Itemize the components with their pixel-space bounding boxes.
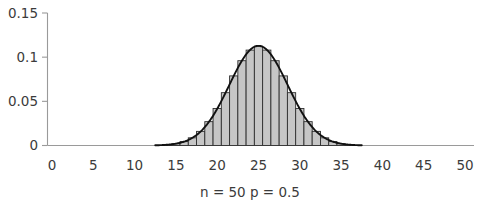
- x-tick-label: 50: [456, 157, 473, 173]
- x-tick-label: 30: [291, 157, 308, 173]
- y-tick-label: 0.05: [8, 93, 38, 109]
- histogram-bar: [263, 50, 271, 145]
- x-axis-tick-labels: 05101520253035404550: [48, 157, 474, 173]
- x-tick-label: 20: [209, 157, 226, 173]
- binomial-normal-chart: 00.050.10.15 05101520253035404550 n = 50…: [0, 0, 482, 214]
- y-axis-tick-labels: 00.050.10.15: [8, 5, 38, 154]
- y-axis: 00.050.10.15: [8, 5, 48, 154]
- histogram-bar: [271, 61, 279, 146]
- chart-caption: n = 50 p = 0.5: [200, 184, 300, 200]
- x-tick-label: 40: [374, 157, 391, 173]
- histogram-bar: [279, 76, 287, 146]
- y-tick-label: 0: [29, 137, 38, 153]
- x-axis: 05101520253035404550: [48, 146, 475, 174]
- chart-canvas: 00.050.10.15 05101520253035404550 n = 50…: [0, 0, 482, 214]
- x-tick-label: 10: [126, 157, 143, 173]
- histogram-bars: [164, 46, 354, 145]
- histogram-bar: [254, 46, 262, 145]
- y-tick-label: 0.15: [8, 5, 38, 21]
- y-axis-ticks: [42, 13, 48, 146]
- x-tick-label: 15: [167, 157, 184, 173]
- x-tick-label: 35: [333, 157, 350, 173]
- x-tick-label: 45: [415, 157, 432, 173]
- histogram-bar: [230, 76, 238, 146]
- histogram-bar: [246, 50, 254, 145]
- x-tick-label: 5: [89, 157, 98, 173]
- x-tick-label: 25: [250, 157, 267, 173]
- x-tick-label: 0: [48, 157, 57, 173]
- y-tick-label: 0.1: [17, 49, 38, 65]
- histogram-bar: [238, 61, 246, 146]
